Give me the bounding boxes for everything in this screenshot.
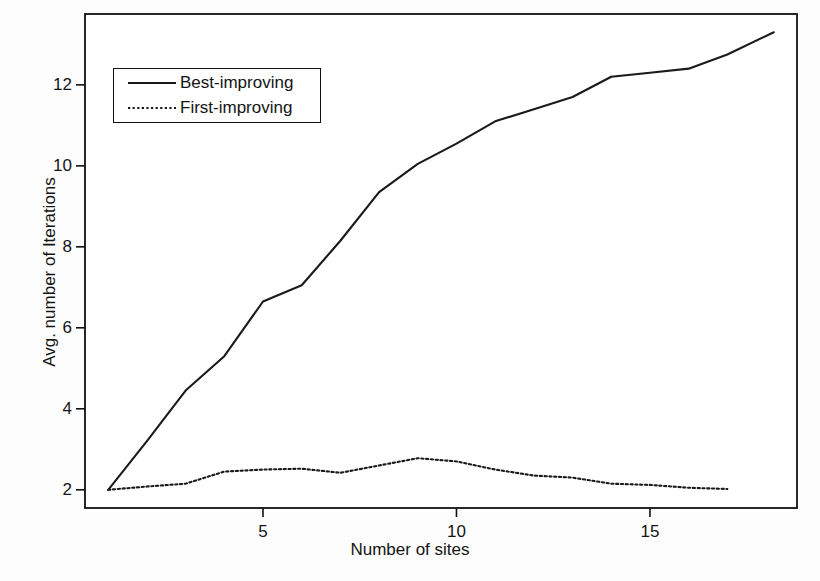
chart-legend: Best-improving First-improving: [113, 68, 321, 123]
legend-item-first-improving: First-improving: [114, 95, 320, 121]
x-axis-tick-marks: [263, 508, 650, 517]
x-axis-title: Number of sites: [0, 540, 820, 560]
x-tick-label: 15: [640, 522, 659, 542]
x-tick-label: 5: [258, 522, 267, 542]
y-axis-tick-marks: [76, 85, 85, 490]
legend-label-first-improving: First-improving: [180, 98, 292, 118]
x-tick-label: 10: [447, 522, 466, 542]
y-tick-label: 2: [20, 480, 72, 500]
chart-figure: 24681012 51015 Number of sites Avg. numb…: [0, 0, 820, 581]
legend-label-best-improving: Best-improving: [180, 73, 293, 93]
legend-item-best-improving: Best-improving: [114, 70, 320, 96]
legend-swatch-dotted-line-icon: [124, 103, 180, 113]
y-axis-title: Avg. number of Iterations: [40, 72, 60, 472]
legend-swatch-solid-line-icon: [124, 78, 180, 88]
